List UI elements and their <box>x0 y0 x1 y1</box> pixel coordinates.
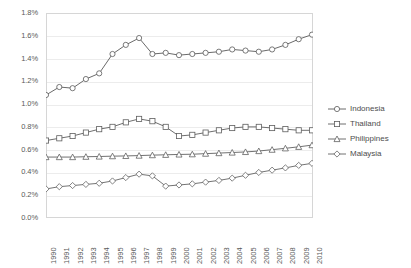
series-point-philippines <box>309 142 313 148</box>
series-point-thailand <box>270 125 275 130</box>
y-axis-tick-label: 0.2% <box>0 191 38 199</box>
series-point-thailand <box>176 133 181 138</box>
x-axis-tick-label: 1997 <box>143 253 151 264</box>
x-axis-tick-label: 2010 <box>316 253 324 264</box>
x-axis-tick-label: 1996 <box>130 253 138 264</box>
x-axis: 1990199119921993199419951996199719981999… <box>46 220 313 268</box>
series-point-indonesia <box>256 49 261 54</box>
series-point-malaysia <box>176 182 182 188</box>
y-axis-tick-label: 0.6% <box>0 146 38 154</box>
series-point-malaysia <box>216 177 222 183</box>
series-point-thailand <box>163 124 168 129</box>
series-point-malaysia <box>136 171 142 177</box>
series-point-malaysia <box>189 181 195 187</box>
series-point-indonesia <box>110 51 115 56</box>
y-axis-tick-label: 0.8% <box>0 123 38 131</box>
series-point-thailand <box>243 124 248 129</box>
series-point-malaysia <box>109 178 115 184</box>
series-point-thailand <box>46 138 49 143</box>
x-axis-tick-label: 2000 <box>183 253 191 264</box>
series-point-thailand <box>137 116 142 121</box>
series-point-thailand <box>150 119 155 124</box>
series-point-indonesia <box>270 47 275 52</box>
legend-item-malaysia[interactable]: Malaysia <box>327 146 411 161</box>
legend-item-thailand[interactable]: Thailand <box>327 116 411 131</box>
series-point-indonesia <box>216 49 221 54</box>
y-axis-tick-label: 1.0% <box>0 100 38 108</box>
y-axis-tick-label: 1.2% <box>0 77 38 85</box>
series-point-malaysia <box>56 184 62 190</box>
x-axis-tick-label: 2007 <box>276 253 284 264</box>
series-point-thailand <box>57 136 62 141</box>
legend-item-label: Philippines <box>347 134 389 143</box>
x-axis-tick-label: 2006 <box>263 253 271 264</box>
legend-item-label: Indonesia <box>347 104 385 113</box>
series-point-indonesia <box>150 51 155 56</box>
series-point-indonesia <box>230 47 235 52</box>
x-axis-tick-label: 1994 <box>103 253 111 264</box>
x-axis-tick-label: 1992 <box>77 253 85 264</box>
series-point-indonesia <box>123 42 128 47</box>
series-point-malaysia <box>256 169 262 175</box>
x-axis-tick-label: 2005 <box>250 253 258 264</box>
series-point-indonesia <box>57 84 62 89</box>
x-axis-tick-label: 2001 <box>196 253 204 264</box>
series-point-thailand <box>283 127 288 132</box>
x-axis-tick-label: 2003 <box>223 253 231 264</box>
series-point-malaysia <box>229 175 235 181</box>
series-point-indonesia <box>309 32 313 37</box>
x-axis-tick-label: 1990 <box>50 253 58 264</box>
series-point-malaysia <box>242 172 248 178</box>
series-point-malaysia <box>96 180 102 186</box>
y-axis-tick-label: 1.4% <box>0 55 38 63</box>
series-point-malaysia <box>269 167 275 173</box>
legend-item-indonesia[interactable]: Indonesia <box>327 101 411 116</box>
series-point-indonesia <box>46 92 49 97</box>
series-point-indonesia <box>97 71 102 76</box>
legend-marker-triangle-icon <box>327 133 347 145</box>
x-axis-tick-label: 2004 <box>236 253 244 264</box>
y-axis-tick-label: 0.0% <box>0 214 38 222</box>
series-line-indonesia <box>46 35 312 95</box>
series-point-thailand <box>83 130 88 135</box>
series-point-indonesia <box>283 42 288 47</box>
series-point-thailand <box>256 124 261 129</box>
series-point-malaysia <box>282 165 288 171</box>
series-point-malaysia <box>309 160 313 166</box>
series-point-thailand <box>70 133 75 138</box>
series-point-malaysia <box>123 174 129 180</box>
legend-marker-diamond-icon <box>327 148 347 160</box>
series-point-malaysia <box>296 162 302 168</box>
data-series-layer <box>46 13 313 218</box>
y-axis-tick-label: 1.6% <box>0 32 38 40</box>
chart-legend: IndonesiaThailandPhilippinesMalaysia <box>327 101 411 161</box>
series-point-thailand <box>110 124 115 129</box>
series-point-thailand <box>216 128 221 133</box>
series-point-malaysia <box>83 181 89 187</box>
x-axis-tick-label: 1998 <box>156 253 164 264</box>
series-point-indonesia <box>296 37 301 42</box>
series-point-thailand <box>123 120 128 125</box>
legend-item-label: Thailand <box>347 119 381 128</box>
series-point-malaysia <box>203 179 209 185</box>
x-axis-tick-label: 2008 <box>289 253 297 264</box>
series-point-indonesia <box>83 76 88 81</box>
series-point-malaysia <box>70 182 76 188</box>
series-point-malaysia <box>46 186 49 192</box>
x-axis-tick-label: 2009 <box>303 253 311 264</box>
series-point-indonesia <box>190 51 195 56</box>
x-axis-tick-label: 2002 <box>210 253 218 264</box>
series-point-indonesia <box>163 50 168 55</box>
legend-item-label: Malaysia <box>347 149 382 158</box>
y-axis-tick-label: 0.4% <box>0 168 38 176</box>
series-point-indonesia <box>176 53 181 58</box>
series-point-indonesia <box>203 50 208 55</box>
chart-container: 0.0%0.2%0.4%0.6%0.8%1.0%1.2%1.4%1.6%1.8%… <box>0 0 411 268</box>
y-axis: 0.0%0.2%0.4%0.6%0.8%1.0%1.2%1.4%1.6%1.8% <box>0 0 44 231</box>
legend-item-philippines[interactable]: Philippines <box>327 131 411 146</box>
series-point-thailand <box>309 128 313 133</box>
series-point-indonesia <box>243 48 248 53</box>
series-point-thailand <box>203 130 208 135</box>
series-point-indonesia <box>137 35 142 40</box>
x-axis-tick-label: 1991 <box>63 253 71 264</box>
